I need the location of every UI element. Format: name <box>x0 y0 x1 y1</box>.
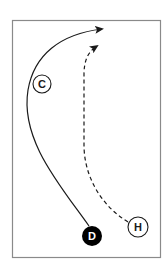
player-h-marker: H <box>128 217 148 237</box>
solid-run-path <box>27 29 102 226</box>
play-diagram: C D H <box>0 0 167 272</box>
player-d-label: D <box>88 230 96 242</box>
player-h-label: H <box>134 221 142 233</box>
player-c-marker: C <box>33 75 51 93</box>
player-c-label: C <box>38 78 46 90</box>
dashed-run-path <box>84 46 128 222</box>
player-d-marker: D <box>82 226 102 246</box>
